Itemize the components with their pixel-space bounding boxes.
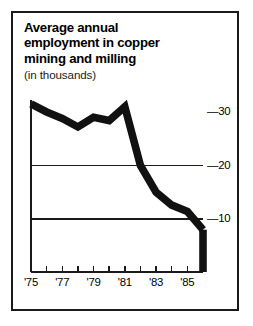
- chart-figure: Average annual employment in copper mini…: [0, 0, 253, 326]
- x-axis-tick-label: '75: [18, 276, 44, 288]
- y-axis-tick-label: —20: [207, 159, 230, 171]
- axis-lines-group: [31, 100, 203, 272]
- y-axis-tick-label: —10: [207, 212, 230, 224]
- x-axis-tick-label: '79: [81, 276, 107, 288]
- x-axis-tick-label: '83: [143, 276, 169, 288]
- data-series-line: [31, 104, 203, 272]
- y-axis-tick-label: —30: [207, 105, 230, 117]
- x-tick-marks-group: [31, 266, 187, 272]
- x-axis-tick-label: '81: [112, 276, 138, 288]
- x-axis-tick-label: '85: [174, 276, 200, 288]
- x-axis-tick-label: '77: [49, 276, 75, 288]
